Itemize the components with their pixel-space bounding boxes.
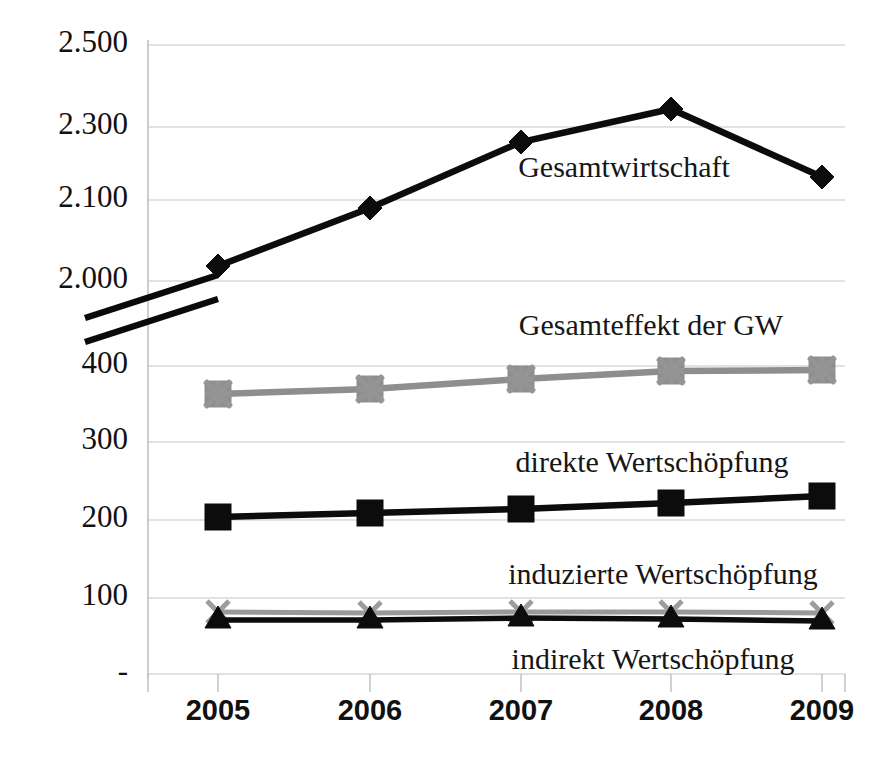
marker-crossbox-lines-2005 xyxy=(205,381,231,407)
line-chart: 2.500 2.300 2.100 2.000 400 300 200 100 … xyxy=(0,0,883,763)
ytick-label-2100: 2.100 xyxy=(58,179,128,214)
xtick-label-2008: 2008 xyxy=(639,694,704,726)
chart-container: 2.500 2.300 2.100 2.000 400 300 200 100 … xyxy=(0,0,883,763)
ytick-label-2300: 2.300 xyxy=(58,106,128,141)
ytick-label-2000: 2.000 xyxy=(58,260,128,295)
xtick-label-2005: 2005 xyxy=(186,694,251,726)
ytick-label-100: 100 xyxy=(82,577,129,612)
annotation-direkte-wertschoepfung: direkte Wertschöpfung xyxy=(516,445,789,478)
xtick-label-2009: 2009 xyxy=(790,694,855,726)
annotation-gesamtwirtschaft: Gesamtwirtschaft xyxy=(518,150,730,183)
ytick-label-300: 300 xyxy=(82,421,129,456)
marker-crossbox-lines-2006 xyxy=(357,376,383,402)
marker-crossbox-lines-2009 xyxy=(809,357,835,383)
marker-square-2009 xyxy=(809,483,835,509)
xtick-label-2006: 2006 xyxy=(338,694,403,726)
ytick-label-zero: - xyxy=(118,653,128,688)
ytick-label-200: 200 xyxy=(82,499,129,534)
marker-crossbox-lines-2007 xyxy=(508,366,534,392)
xtick-label-2007: 2007 xyxy=(489,694,554,726)
marker-crossbox-lines-2008 xyxy=(658,358,684,384)
marker-square-2008 xyxy=(658,490,684,516)
marker-square-2006 xyxy=(357,500,383,526)
ytick-label-2500: 2.500 xyxy=(58,24,128,59)
marker-square-2005 xyxy=(205,504,231,530)
ytick-label-400: 400 xyxy=(82,345,129,380)
annotation-indirekt-wertschoepfung: indirekt Wertschöpfung xyxy=(512,642,795,675)
annotation-gesamteffekt-der-gw: Gesamteffekt der GW xyxy=(519,308,784,341)
marker-square-2007 xyxy=(508,496,534,522)
annotation-induzierte-wertschoepfung: induzierte Wertschöpfung xyxy=(508,557,817,590)
